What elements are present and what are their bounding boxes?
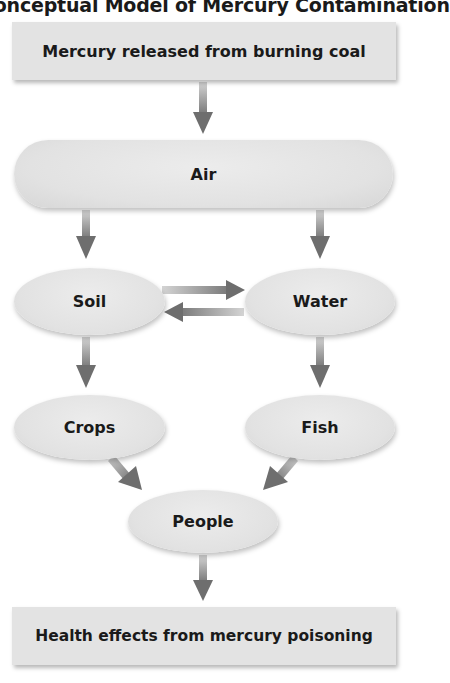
- arrow-soil-to-crops: [76, 337, 96, 388]
- arrow-crops-to-people: [108, 455, 142, 490]
- arrow-water-to-fish: [310, 337, 330, 388]
- node-air: Air: [14, 140, 393, 208]
- node-soil-label: Soil: [73, 292, 106, 311]
- node-source-label: Mercury released from burning coal: [42, 42, 366, 61]
- node-fish-label: Fish: [301, 418, 338, 437]
- arrow-people-to-outcome: [193, 555, 213, 601]
- node-people: People: [128, 490, 278, 553]
- node-crops: Crops: [14, 395, 165, 460]
- node-outcome: Health effects from mercury poisoning: [12, 607, 396, 665]
- node-people-label: People: [172, 512, 233, 531]
- node-water-label: Water: [293, 292, 347, 311]
- arrow-fish-to-people: [263, 455, 298, 490]
- arrow-soil-to-water: [162, 280, 245, 300]
- arrow-source-to-air: [193, 82, 213, 134]
- node-crops-label: Crops: [64, 418, 116, 437]
- node-water: Water: [245, 268, 395, 335]
- node-air-label: Air: [191, 165, 217, 184]
- arrow-water-to-soil: [164, 302, 244, 322]
- node-source: Mercury released from burning coal: [12, 22, 396, 80]
- node-soil: Soil: [14, 268, 165, 335]
- arrow-air-to-water: [310, 210, 330, 259]
- node-outcome-label: Health effects from mercury poisoning: [35, 627, 373, 645]
- arrow-air-to-soil: [76, 210, 96, 259]
- node-fish: Fish: [245, 395, 395, 460]
